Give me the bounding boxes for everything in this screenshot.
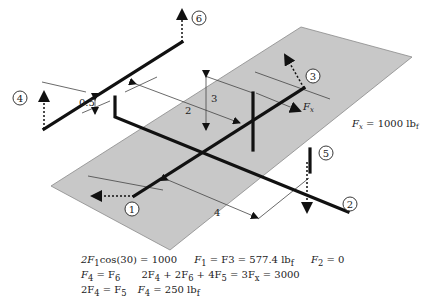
dimension-4: 4 — [214, 207, 220, 218]
node-2-label: 2 — [347, 199, 353, 210]
equation-line-1: 2F1cos(30) = 1000 F1 = F3 = 577.4 lbf F2… — [81, 254, 344, 268]
fx-value: Fx = 1000 lbf — [351, 118, 420, 131]
dimension-0-5: 0.5 — [79, 97, 95, 108]
node-1-label: 1 — [129, 204, 135, 215]
node-6-label: 6 — [196, 13, 202, 24]
ground-plane — [51, 27, 412, 250]
dimension-2: 2 — [185, 105, 191, 116]
node-4-label: 4 — [17, 93, 23, 104]
equation-line-2: F4 = F6 2F4 + 2F6 + 4F5 = 3Fx = 3000 — [81, 269, 300, 283]
svg-text:Fx = 1000 lbf: Fx = 1000 lbf — [351, 118, 420, 131]
node-5-label: 5 — [323, 148, 329, 159]
node-3-label: 3 — [310, 71, 316, 82]
equation-line-3: 2F4 = F5 F4 = 250 lbf — [81, 284, 200, 298]
dimension-3: 3 — [211, 93, 217, 104]
